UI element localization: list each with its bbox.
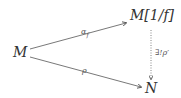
- label-alpha-subscript: f: [86, 31, 88, 38]
- node-N: N: [145, 81, 157, 95]
- node-M: M: [13, 45, 27, 59]
- arrow-alpha-f: [30, 23, 126, 49]
- label-rho: ρ: [82, 67, 87, 75]
- node-M-localized: M[1/f]: [130, 8, 174, 22]
- label-alpha-f: αf: [81, 28, 89, 38]
- label-exists-unique-rho-prime: ∃!ρ′: [155, 49, 169, 57]
